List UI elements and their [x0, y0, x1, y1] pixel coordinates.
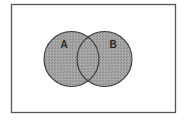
set-b-label: B: [109, 39, 116, 50]
set-a-label: A: [60, 39, 67, 50]
venn-diagram: A B: [0, 0, 186, 124]
